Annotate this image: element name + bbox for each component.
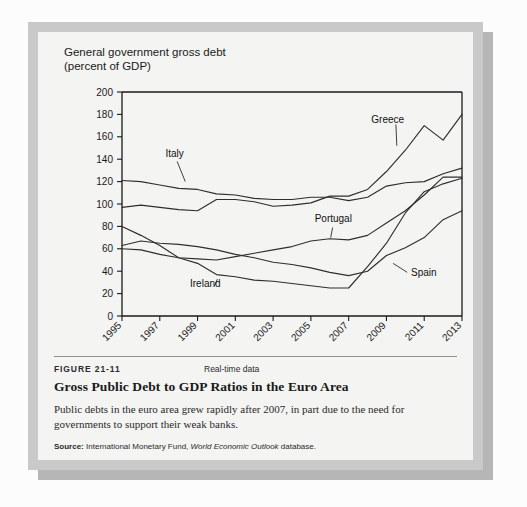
y-tick-label: 40 xyxy=(102,266,114,277)
series-line-italy xyxy=(122,168,462,200)
chart-series-labels: GreeceItalyPortugalIrelandSpain xyxy=(165,114,436,289)
figure-number: FIGURE 21-11 xyxy=(54,364,204,374)
figure-title: Gross Public Debt to GDP Ratios in the E… xyxy=(54,379,457,395)
y-tick-label: 60 xyxy=(102,243,114,254)
caption-top-row: FIGURE 21-11 Real-time data xyxy=(54,364,457,374)
x-tick-label: 2007 xyxy=(327,319,351,343)
x-tick-label: 2009 xyxy=(364,319,388,343)
series-line-portugal xyxy=(122,177,462,260)
series-label-portugal: Portugal xyxy=(315,213,352,224)
caption-divider xyxy=(54,356,457,357)
x-tick-label: 2001 xyxy=(213,319,237,343)
x-tick-label: 1997 xyxy=(138,319,162,343)
leader-line-portugal xyxy=(331,228,333,238)
source-text-last: database. xyxy=(281,442,316,451)
y-tick-label: 140 xyxy=(96,154,113,165)
series-label-spain: Spain xyxy=(411,267,437,278)
figure-panel: General government gross debt (percent o… xyxy=(38,32,473,460)
x-tick-label: 2013 xyxy=(440,319,464,343)
chart-series-lines xyxy=(122,114,462,288)
series-label-italy: Italy xyxy=(165,148,183,159)
x-tick-label: 2011 xyxy=(403,319,426,342)
y-tick-label: 180 xyxy=(96,109,113,120)
x-axis-ticks: 1995199719992001200320052007200920112013 xyxy=(100,316,464,343)
source-text-first: International Monetary Fund, xyxy=(86,442,188,451)
chart-axes xyxy=(122,92,462,316)
x-tick-label: 2005 xyxy=(289,319,313,343)
line-chart: 020406080100120140160180200 199519971999… xyxy=(38,32,473,354)
figure-description: Public debts in the euro area grew rapid… xyxy=(54,402,444,431)
source-text-italic: World Economic Outlook xyxy=(191,442,279,451)
y-tick-label: 160 xyxy=(96,131,113,142)
realtime-data-label: Real-time data xyxy=(204,364,259,374)
chart-region: General government gross debt (percent o… xyxy=(38,32,473,354)
leader-line-italy xyxy=(177,161,185,181)
series-line-greece xyxy=(122,114,462,210)
leader-line-spain xyxy=(393,263,407,272)
y-tick-label: 120 xyxy=(96,176,113,187)
caption-region: FIGURE 21-11 Real-time data Gross Public… xyxy=(38,356,473,460)
y-tick-label: 20 xyxy=(102,288,114,299)
y-axis-ticks: 020406080100120140160180200 xyxy=(96,87,122,322)
y-tick-label: 80 xyxy=(102,221,114,232)
page-background: General government gross debt (percent o… xyxy=(0,0,527,507)
y-tick-label: 0 xyxy=(107,311,113,322)
series-label-greece: Greece xyxy=(371,114,404,125)
y-tick-label: 200 xyxy=(96,87,113,98)
leader-line-greece xyxy=(396,124,397,145)
figure-source: Source: International Monetary Fund, Wor… xyxy=(54,442,457,451)
source-label: Source: xyxy=(54,442,84,451)
x-tick-label: 1995 xyxy=(100,319,124,343)
figure-frame: General government gross debt (percent o… xyxy=(28,22,483,470)
y-tick-label: 100 xyxy=(96,199,113,210)
x-tick-label: 1999 xyxy=(175,319,199,343)
x-tick-label: 2003 xyxy=(251,319,275,343)
